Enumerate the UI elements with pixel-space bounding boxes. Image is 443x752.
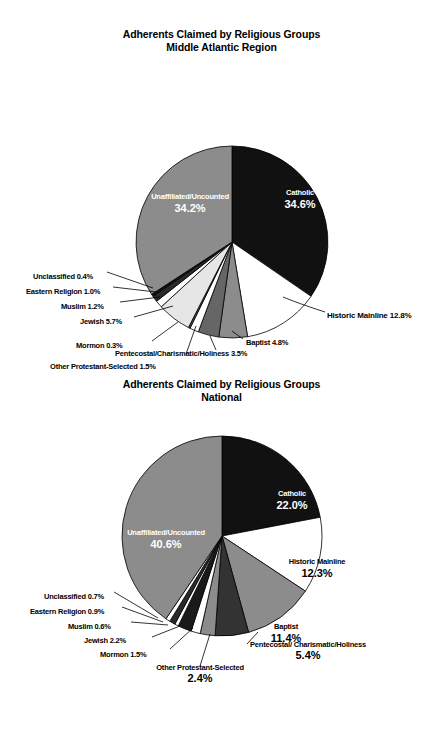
- chart2-label-pentecostal: Pentecostal/ Charismatic/Holiness 5.4%: [246, 641, 370, 661]
- leader-muslim: [131, 622, 168, 625]
- chart1-title-line1: Adherents Claimed by Religious Groups: [0, 28, 443, 41]
- leader-muslim: [120, 297, 160, 302]
- leader-mormon: [152, 322, 178, 341]
- chart2-label-unclassified: Unclassified 0.7%: [44, 586, 104, 603]
- chart2-title-line1: Adherents Claimed by Religious Groups: [0, 378, 443, 391]
- chart2-pie-svg: [0, 404, 443, 734]
- chart1-label-jewish: Jewish 5.7%: [80, 311, 122, 328]
- chart2-slices: [122, 436, 322, 636]
- chart1-title-line2: Middle Atlantic Region: [0, 41, 443, 54]
- chart1-label-muslim: Muslim 1.2%: [61, 296, 104, 313]
- leader-mormon: [170, 628, 193, 649]
- chart2-title-line2: National: [0, 391, 443, 404]
- chart2-label-eastern-religion: Eastern Religion 0.9%: [30, 601, 104, 618]
- chart1-slices: [136, 146, 328, 338]
- chart1-label-historic-mainline: Historic Mainline 12.8%: [327, 305, 411, 322]
- chart2-pie-area: Catholic 22.0% Unaffiliated/Uncounted 40…: [0, 404, 443, 734]
- chart2-label-muslim: Muslim 0.6%: [68, 616, 111, 633]
- chart2-title: Adherents Claimed by Religious Groups Na…: [0, 368, 443, 404]
- chart-middle-atlantic: Adherents Claimed by Religious Groups Mi…: [0, 0, 443, 368]
- chart1-pie-area: Catholic 34.6% Unaffiliated/Uncounted 34…: [0, 54, 443, 354]
- leader-other-protestant: [200, 634, 210, 666]
- chart1-label-mormon: Mormon 0.3%: [76, 335, 123, 352]
- chart1-title: Adherents Claimed by Religious Groups Mi…: [0, 0, 443, 54]
- chart1-label-unclassified: Unclassified 0.4%: [33, 266, 93, 283]
- chart2-label-other-protestant: Other Protestant-Selected 2.4%: [117, 664, 283, 684]
- chart-national: Adherents Claimed by Religious Groups Na…: [0, 368, 443, 752]
- leader-jewish: [152, 626, 180, 637]
- chart1-label-baptist: Baptist 4.8%: [246, 332, 288, 349]
- chart1-label-eastern-religion: Eastern Religion 1.0%: [26, 281, 100, 298]
